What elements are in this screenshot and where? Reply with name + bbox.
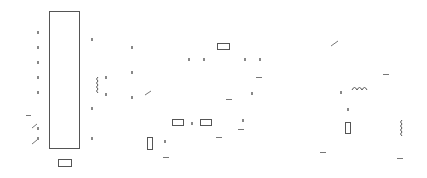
pin-tick xyxy=(37,61,39,64)
pin-tick xyxy=(91,137,93,140)
pin-tick xyxy=(259,58,261,61)
pin-tick xyxy=(191,122,193,125)
diagram-type: circuit-schematic xyxy=(0,0,9,1)
pin-tick xyxy=(347,108,349,111)
inductor-right-vertical-icon xyxy=(401,120,403,136)
slashes-layer xyxy=(32,41,338,144)
switch-slash xyxy=(32,140,37,144)
switch-slash xyxy=(145,91,151,95)
pin-tick xyxy=(251,92,253,95)
pin-tick xyxy=(37,127,39,130)
rect-small-bottom xyxy=(59,160,72,167)
pin-ticks-layer xyxy=(37,31,349,143)
components-layer xyxy=(50,12,403,167)
switch-slash xyxy=(32,124,37,128)
pin-tick xyxy=(131,96,133,99)
pin-tick xyxy=(37,46,39,49)
inductor-left-icon xyxy=(97,77,99,93)
dashes-layer xyxy=(26,75,403,159)
pin-tick xyxy=(188,58,190,61)
switch-slash xyxy=(331,41,338,46)
pin-tick xyxy=(164,140,166,143)
pin-tick xyxy=(37,31,39,34)
pin-tick xyxy=(203,58,205,61)
resistor-mid-b xyxy=(201,120,212,126)
resistor-mid-a xyxy=(173,120,184,126)
pin-tick xyxy=(37,137,39,140)
pin-tick xyxy=(242,119,244,122)
resistor-top xyxy=(218,44,230,50)
pin-tick xyxy=(131,46,133,49)
pin-tick xyxy=(244,58,246,61)
ic-block xyxy=(50,12,80,149)
pin-tick xyxy=(131,71,133,74)
pin-tick xyxy=(105,93,107,96)
pin-tick xyxy=(340,91,342,94)
pin-tick xyxy=(91,107,93,110)
pin-tick xyxy=(37,91,39,94)
inductor-right-horizontal-icon xyxy=(352,88,367,91)
pin-tick xyxy=(105,76,107,79)
resistor-v-right xyxy=(346,123,351,134)
circuit-schematic xyxy=(0,0,427,178)
resistor-v-left xyxy=(148,138,153,150)
pin-tick xyxy=(37,76,39,79)
pin-tick xyxy=(91,38,93,41)
